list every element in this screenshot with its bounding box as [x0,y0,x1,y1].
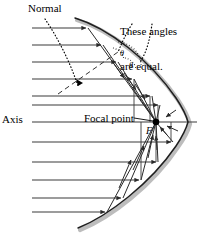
these-angles-line1: These angles [120,26,177,38]
these-angles-label: These angles are equal. [120,2,177,97]
focal-point-symbol-label: F [146,126,152,137]
focal-point-label: Focal point [84,113,134,125]
normal-leader-line [45,19,83,86]
ray-arrow [167,126,178,131]
angle-2-label: θ [129,62,133,71]
axis-label: Axis [2,114,23,126]
focal-point-dot [153,119,160,126]
ray-arrow [166,110,176,117]
ray-arrow [160,127,167,135]
angle-1-label: θ [120,50,124,59]
parabolic-reflector-figure: Normal These angles are equal. Axis Foca… [0,0,199,234]
ray-arrow [133,146,144,170]
normal-label: Normal [28,3,62,15]
